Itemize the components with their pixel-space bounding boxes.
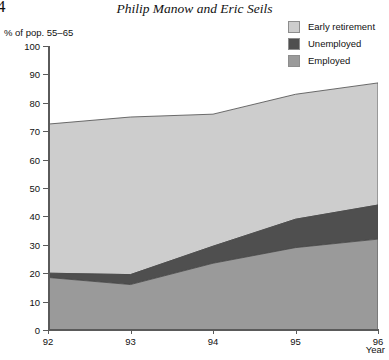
y-tick-label-70: 70 [29,126,40,137]
legend-label-early-retirement: Early retirement [308,22,375,32]
x-tick-93 [131,329,132,334]
y-tick-label-40: 40 [29,211,40,222]
y-tick-50 [43,188,48,189]
x-tick-label-94: 94 [208,336,219,347]
y-tick-60 [43,160,48,161]
x-tick-94 [213,329,214,334]
y-tick-80 [43,103,48,104]
x-tick-label-95: 95 [290,336,301,347]
x-tick-95 [296,329,297,334]
legend-item-early-retirement: Early retirement [288,19,375,35]
y-tick-label-90: 90 [29,69,40,80]
y-tick-label-50: 50 [29,183,40,194]
y-tick-70 [43,131,48,132]
y-tick-40 [43,216,48,217]
y-axis-line [48,46,50,330]
y-tick-label-0: 0 [35,325,40,336]
plot-area: 0102030405060708090100 9293949596 [48,46,378,330]
y-tick-label-80: 80 [29,97,40,108]
x-tick-92 [48,329,49,334]
y-tick-10 [43,302,48,303]
stacked-area-series [48,46,378,330]
running-head: Philip Manow and Eric Seils [0,1,389,17]
y-tick-label-10: 10 [29,296,40,307]
x-tick-96 [378,329,379,334]
y-tick-90 [43,74,48,75]
legend-swatch-early-retirement [288,21,300,33]
y-tick-label-20: 20 [29,268,40,279]
y-tick-100 [43,46,48,47]
x-tick-label-92: 92 [43,336,54,347]
y-tick-label-30: 30 [29,239,40,250]
y-tick-30 [43,245,48,246]
y-tick-20 [43,273,48,274]
figure-page: 4 Philip Manow and Eric Seils % of pop. … [0,0,389,360]
y-tick-label-60: 60 [29,154,40,165]
x-tick-label-93: 93 [125,336,136,347]
y-tick-label-100: 100 [24,41,40,52]
x-tick-label-96: 96 [373,336,384,347]
y-axis-title: % of pop. 55–65 [4,27,73,38]
